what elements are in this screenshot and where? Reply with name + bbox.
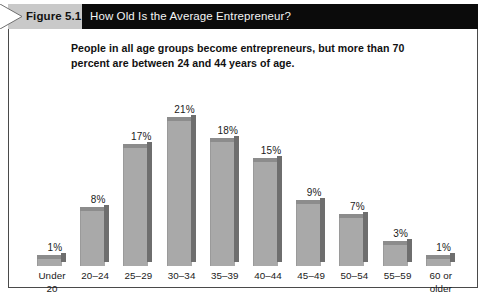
bar-chart-plot: 1%8%17%21%18%15%9%7%3%1% Under2020–2425–… — [9, 81, 477, 286]
x-axis-tick-line: Under — [30, 270, 74, 283]
bar-top-face — [123, 144, 147, 148]
x-axis-labels: Under2020–2425–2930–3435–3940–4445–4950–… — [37, 270, 469, 296]
bar-side-face — [104, 207, 109, 262]
bar-series: 1%8%17%21%18%15%9%7%3%1% — [37, 81, 469, 266]
x-axis-tick-label: 35–39 — [203, 270, 247, 283]
x-axis-tick-line: 45–49 — [289, 270, 333, 283]
bar-group[interactable]: 1% — [37, 81, 78, 266]
bar-top-cap — [450, 253, 455, 257]
bar-value-label: 7% — [339, 201, 375, 212]
bar-top-face — [339, 214, 363, 218]
bar-group[interactable]: 3% — [383, 81, 424, 266]
bar-side-face — [320, 200, 325, 262]
bar-side-face — [407, 241, 412, 262]
bar-top-face — [167, 117, 191, 121]
x-axis-tick-line: 40–44 — [246, 270, 290, 283]
bar-value-label: 9% — [296, 187, 332, 198]
x-axis-tick-label: 25–29 — [116, 270, 160, 283]
bar-top-cap — [363, 212, 368, 216]
x-axis-tick-line: 55–59 — [376, 270, 420, 283]
bar-top-face — [37, 255, 61, 259]
x-axis-tick-line: 20 — [30, 283, 74, 296]
bar-group[interactable]: 1% — [426, 81, 467, 266]
bar-top-cap — [277, 156, 282, 160]
bar-top-cap — [191, 115, 196, 119]
bar-group[interactable]: 9% — [296, 81, 337, 266]
x-axis-tick-label: 40–44 — [246, 270, 290, 283]
x-axis-tick-label: 60 orolder — [419, 270, 463, 295]
bar-front-face — [123, 148, 148, 266]
bar-value-label: 17% — [123, 131, 159, 142]
x-axis-tick-line: 25–29 — [116, 270, 160, 283]
bar-front-face — [426, 259, 451, 266]
bar-front-face — [210, 142, 235, 266]
chevron-right-icon — [0, 4, 22, 29]
x-axis-tick-label: 50–54 — [332, 270, 376, 283]
bar-front-face — [296, 204, 321, 266]
bar-group[interactable]: 18% — [210, 81, 251, 266]
bar-value-label: 3% — [383, 228, 419, 239]
figure-body-panel: People in all age groups become entrepre… — [8, 29, 478, 288]
figure-title: How Old Is the Average Entrepreneur? — [90, 4, 291, 29]
bar-value-label: 21% — [167, 104, 203, 115]
bar-group[interactable]: 21% — [167, 81, 208, 266]
bar-top-cap — [104, 205, 109, 209]
bar-group[interactable]: 17% — [123, 81, 164, 266]
bar-top-cap — [234, 136, 239, 140]
bar-top-face — [253, 158, 277, 162]
x-axis-tick-label: 30–34 — [160, 270, 204, 283]
x-axis-tick-line: 30–34 — [160, 270, 204, 283]
bar-front-face — [253, 162, 278, 266]
bar-side-face — [191, 117, 196, 262]
bar-front-face — [339, 218, 364, 266]
bar-front-face — [80, 211, 105, 266]
bar-side-face — [363, 214, 368, 262]
bar-group[interactable]: 15% — [253, 81, 294, 266]
bar-side-face — [234, 138, 239, 262]
bar-top-face — [210, 138, 234, 142]
bar-front-face — [383, 245, 408, 266]
x-axis-tick-line: 35–39 — [203, 270, 247, 283]
bar-group[interactable]: 7% — [339, 81, 380, 266]
bar-top-cap — [147, 142, 152, 146]
x-axis-tick-line: 50–54 — [332, 270, 376, 283]
figure-subtitle: People in all age groups become entrepre… — [71, 41, 441, 70]
figure-container: Figure 5.1 How Old Is the Average Entrep… — [0, 0, 484, 296]
figure-number-label: Figure 5.1 — [26, 4, 82, 29]
bar-value-label: 8% — [80, 194, 116, 205]
bar-side-face — [277, 158, 282, 262]
bar-side-face — [147, 144, 152, 262]
bar-value-label: 1% — [37, 242, 73, 253]
bar-value-label: 15% — [253, 145, 289, 156]
x-axis-tick-line: 20–24 — [73, 270, 117, 283]
bar-value-label: 18% — [210, 125, 246, 136]
x-axis-tick-line: 60 or — [419, 270, 463, 283]
bar-top-cap — [61, 253, 66, 257]
bar-top-face — [383, 241, 407, 245]
bar-front-face — [37, 259, 62, 266]
bar-group[interactable]: 8% — [80, 81, 121, 266]
x-axis-tick-line: older — [419, 283, 463, 296]
bar-top-cap — [320, 198, 325, 202]
bar-front-face — [167, 121, 192, 266]
bar-top-cap — [407, 239, 412, 243]
x-axis-tick-label: 45–49 — [289, 270, 333, 283]
x-axis-tick-label: 20–24 — [73, 270, 117, 283]
bar-top-face — [80, 207, 104, 211]
bar-value-label: 1% — [426, 242, 462, 253]
bar-top-face — [426, 255, 450, 259]
x-axis-tick-label: 55–59 — [376, 270, 420, 283]
x-axis-tick-label: Under20 — [30, 270, 74, 295]
bar-top-face — [296, 200, 320, 204]
